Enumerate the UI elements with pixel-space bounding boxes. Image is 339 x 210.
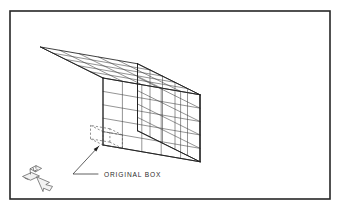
technical-drawing: ORIGINAL BOX [0,0,339,210]
diagram-canvas: ORIGINAL BOX [0,0,339,210]
callout-leader [73,146,99,174]
original-box-cell [91,125,123,148]
box-array-wireframe [41,47,201,162]
isometric-arrow-logo [23,166,53,192]
drawing-border [10,11,330,199]
original-box-label: ORIGINAL BOX [104,171,161,178]
